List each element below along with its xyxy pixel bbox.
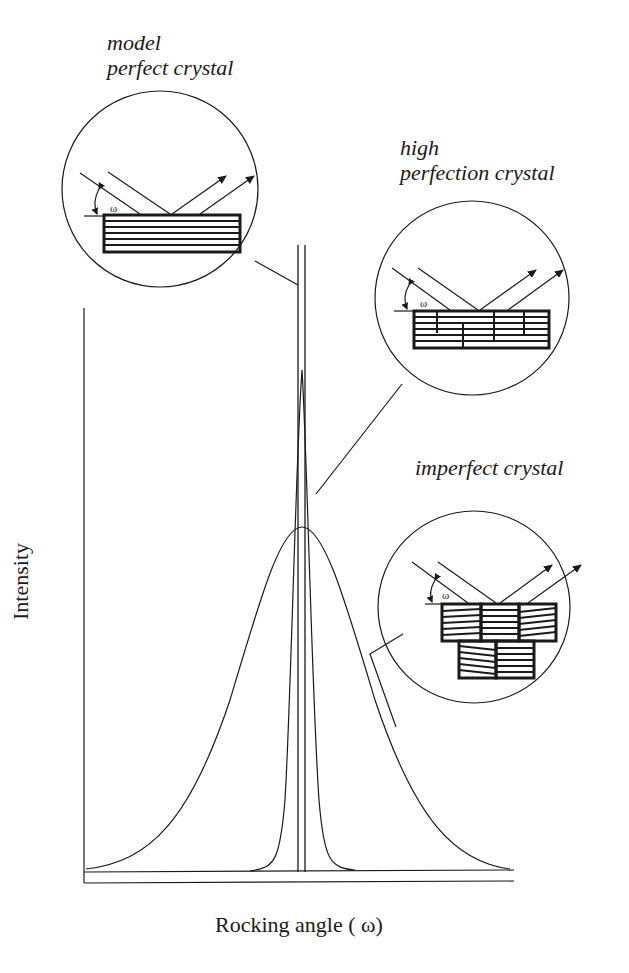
curve-high-perfection (250, 370, 355, 871)
inset-imperfect (378, 511, 581, 703)
omega-icon: ω (420, 297, 427, 309)
crystal-block (442, 604, 556, 678)
crystal-block (414, 311, 549, 348)
curve-model-perfect (298, 245, 305, 872)
crystal-block (104, 215, 240, 252)
leader-imperfect (370, 634, 403, 727)
omega-icon: ω (442, 589, 449, 601)
leader-model (255, 261, 298, 285)
rocking-curve-diagram: ω ω (0, 0, 629, 973)
baseline (84, 870, 514, 872)
inset-high-perfection (375, 201, 569, 395)
inset-model-perfect (62, 91, 258, 287)
leader-high (316, 384, 402, 494)
x-axis (84, 881, 514, 883)
omega-icon: ω (110, 202, 117, 214)
